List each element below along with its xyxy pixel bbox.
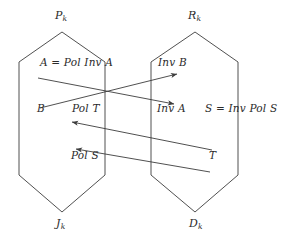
right-top-subscript: k bbox=[196, 14, 201, 23]
arrow-a-to-inv-a bbox=[38, 78, 174, 104]
right-lattice-bottom-label: Dk bbox=[189, 218, 203, 230]
left-lattice-top-label: Pk bbox=[55, 10, 67, 22]
label-inv-a: Inv A bbox=[157, 103, 186, 114]
label-b: B bbox=[37, 103, 45, 114]
label-inv-b: Inv B bbox=[158, 57, 187, 68]
right-lattice-top-label: Rk bbox=[188, 10, 201, 22]
arrow-s-to-pol-t bbox=[72, 122, 212, 150]
right-bottom-letter: D bbox=[189, 217, 198, 230]
left-top-subscript: k bbox=[63, 14, 68, 23]
label-pol-t: Pol T bbox=[72, 103, 100, 114]
label-a-pol-inv-a: A = Pol Inv A bbox=[40, 57, 113, 68]
left-top-letter: P bbox=[55, 9, 63, 22]
label-pol-s: Pol S bbox=[71, 150, 99, 161]
label-t: T bbox=[209, 150, 216, 161]
left-lattice-bottom-label: Jk bbox=[56, 218, 65, 230]
left-bottom-subscript: k bbox=[61, 222, 66, 231]
label-s-inv-pol-s: S = Inv Pol S bbox=[205, 103, 277, 114]
right-bottom-subscript: k bbox=[198, 222, 203, 231]
figure-svg bbox=[0, 0, 299, 241]
diagram-canvas: Pk Rk Jk Dk A = Pol Inv A Inv B B Pol T … bbox=[0, 0, 299, 241]
